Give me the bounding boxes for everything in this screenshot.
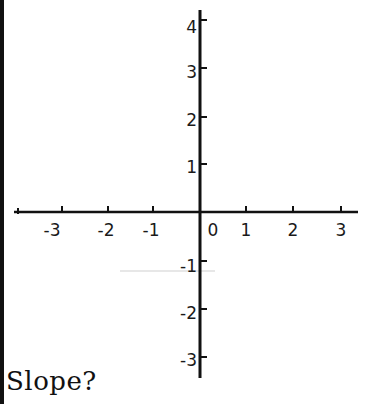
- x-label-neg2: -2: [98, 220, 115, 240]
- x-label-zero: 0: [208, 220, 219, 240]
- x-label-pos1: 1: [241, 220, 252, 240]
- x-label-pos3: 3: [336, 220, 347, 240]
- y-label-neg2: -2: [180, 303, 197, 323]
- slope-question: Slope?: [6, 368, 97, 394]
- y-label-pos3: 3: [186, 62, 197, 82]
- x-label-pos2: 2: [288, 220, 299, 240]
- y-label-neg1: -1: [180, 256, 197, 276]
- x-label-neg1: -1: [143, 220, 160, 240]
- y-label-pos4: 4: [186, 17, 197, 37]
- y-label-pos2: 2: [186, 110, 197, 130]
- y-label-neg3: -3: [180, 350, 197, 370]
- coordinate-plane: -3 -2 -1 0 1 2 3 4 3 2 1 -1 -2 -3: [0, 0, 365, 404]
- x-label-neg3: -3: [44, 220, 61, 240]
- y-label-pos1: 1: [186, 157, 197, 177]
